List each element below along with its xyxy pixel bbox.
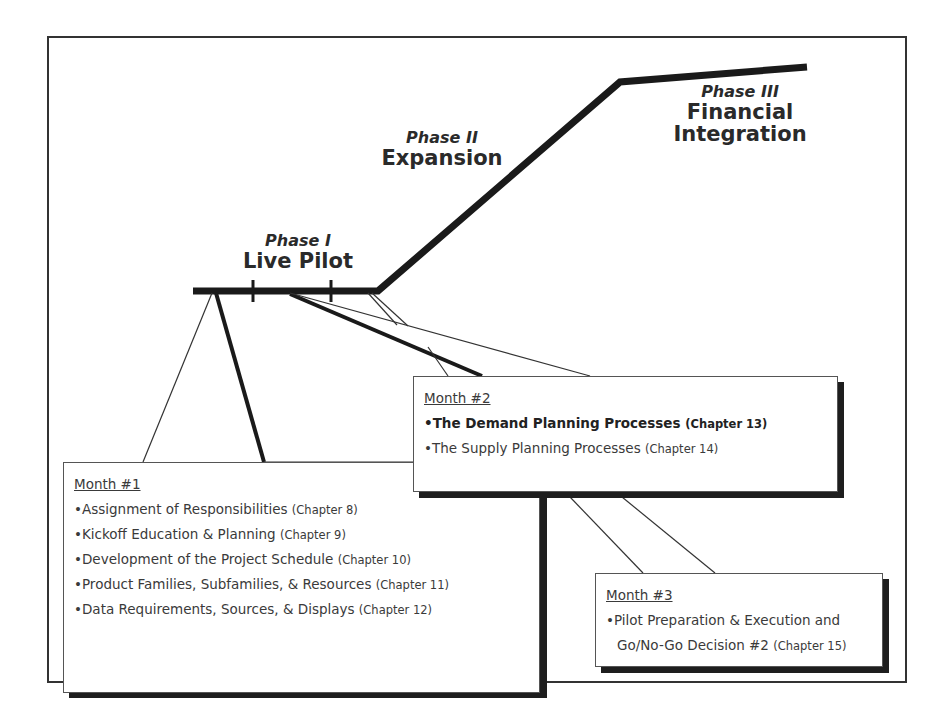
month-3-item-2: Go/No-Go Decision #2 (Chapter 15) <box>606 637 882 653</box>
bullet: • <box>74 601 82 617</box>
bullet: • <box>74 501 82 517</box>
chapter-ref: (Chapter 12) <box>359 603 432 617</box>
item-text: Go/No-Go Decision #2 <box>617 637 769 653</box>
month-1-item-3: •Development of the Project Schedule (Ch… <box>74 551 539 567</box>
chapter-ref: (Chapter 13) <box>685 417 767 431</box>
phase-3-number: Phase III <box>660 84 820 101</box>
bullet: • <box>606 612 614 628</box>
phase-2-label: Phase II Expansion <box>372 130 512 169</box>
item-text: The Demand Planning Processes <box>433 415 681 431</box>
phase-1-label: Phase I Live Pilot <box>228 233 368 272</box>
callout-month1-right <box>216 293 264 462</box>
bullet: • <box>74 576 82 592</box>
month-2-box: Month #2 •The Demand Planning Processes … <box>413 376 838 492</box>
chapter-ref: (Chapter 15) <box>773 639 846 653</box>
item-text: Data Requirements, Sources, & Displays <box>82 601 355 617</box>
phase-1-name: Live Pilot <box>228 250 368 272</box>
phased-implementation-diagram: Phase I Live Pilot Phase II Expansion Ph… <box>0 0 952 719</box>
month-2-item-1: •The Demand Planning Processes (Chapter … <box>424 415 837 431</box>
item-text: Kickoff Education & Planning <box>82 526 276 542</box>
month-2-item-2: •The Supply Planning Processes (Chapter … <box>424 440 837 456</box>
month-3-box: Month #3 •Pilot Preparation & Execution … <box>595 573 883 667</box>
month-1-item-2: •Kickoff Education & Planning (Chapter 9… <box>74 526 539 542</box>
item-text: Pilot Preparation & Execution and <box>614 612 840 628</box>
bullet: • <box>424 415 433 431</box>
month-1-item-1: •Assignment of Responsibilities (Chapter… <box>74 501 539 517</box>
chapter-ref: (Chapter 11) <box>376 578 449 592</box>
callout-month3-right <box>622 497 715 573</box>
bullet: • <box>74 551 82 567</box>
bullet: • <box>74 526 82 542</box>
phase-3-name-line2: Integration <box>660 123 820 145</box>
phase-1-number: Phase I <box>228 233 368 250</box>
item-text: Assignment of Responsibilities <box>82 501 288 517</box>
month-3-title: Month #3 <box>606 587 882 603</box>
item-text: The Supply Planning Processes <box>432 440 641 456</box>
chapter-ref: (Chapter 14) <box>645 442 718 456</box>
month-2-title: Month #2 <box>424 390 837 406</box>
item-text: Product Families, Subfamilies, & Resourc… <box>82 576 371 592</box>
phase-3-label: Phase III Financial Integration <box>660 84 820 145</box>
callout-month3-left <box>570 497 643 573</box>
phase-3-name-line1: Financial <box>660 101 820 123</box>
chapter-ref: (Chapter 10) <box>338 553 411 567</box>
month-1-item-4: •Product Families, Subfamilies, & Resour… <box>74 576 539 592</box>
callout-month1-left <box>143 293 212 462</box>
month-1-item-5: •Data Requirements, Sources, & Displays … <box>74 601 539 617</box>
item-text: Development of the Project Schedule <box>82 551 333 567</box>
chapter-ref: (Chapter 9) <box>280 528 346 542</box>
callout-month2-short-a <box>368 293 397 325</box>
phase-2-name: Expansion <box>372 147 512 169</box>
chapter-ref: (Chapter 8) <box>292 503 358 517</box>
bullet: • <box>424 440 432 456</box>
phase-2-number: Phase II <box>372 130 512 147</box>
month-3-item-1: •Pilot Preparation & Execution and <box>606 612 882 628</box>
